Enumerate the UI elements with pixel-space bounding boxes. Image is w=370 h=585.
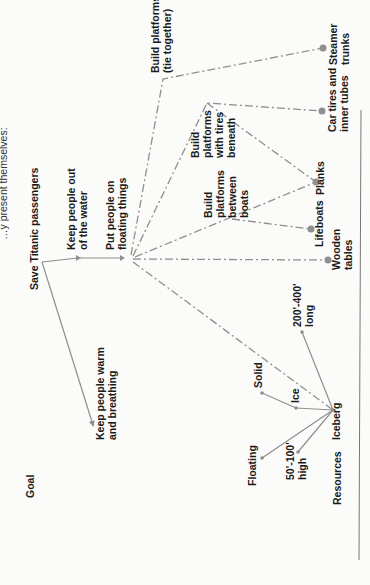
strategy-tires-beneath: Build platforms with tires beneath <box>189 110 237 159</box>
svg-text:high: high <box>296 458 308 480</box>
resource-car-tires: Car tires and inner tubes <box>326 68 350 132</box>
goal-root-label: Save Titanic passengers <box>28 167 40 290</box>
caption: …y present themselves: <box>0 127 9 240</box>
iceberg-label: Iceberg <box>330 403 342 440</box>
attr-floating: Floating <box>246 445 258 486</box>
goal-row-label: Goal <box>24 475 36 498</box>
node-ice <box>294 406 298 410</box>
node-car-tires <box>319 108 326 115</box>
resources-row-label: Resources <box>331 451 343 505</box>
node-steamer-trunks <box>320 45 327 52</box>
svg-text:(tie together): (tie together) <box>161 9 173 73</box>
resource-wooden-tables: Wooden tables <box>330 229 354 270</box>
svg-text:with tires: with tires <box>213 112 225 159</box>
resource-planks: Planks <box>314 161 326 195</box>
svg-text:tables: tables <box>342 239 354 270</box>
svg-text:Keep people warm: Keep people warm <box>94 347 106 440</box>
node-solid <box>260 391 264 395</box>
svg-text:Car tires and: Car tires and <box>326 68 338 132</box>
svg-text:Build: Build <box>202 192 214 218</box>
subgoal-floating-things: Put people on floating things <box>104 178 128 250</box>
resource-steamer-trunks: Steamer trunks <box>327 24 351 65</box>
attr-ice: Ice <box>289 388 301 403</box>
svg-text:200'-400': 200'-400' <box>291 283 303 327</box>
svg-text:platforms: platforms <box>214 170 226 218</box>
attr-length: 200'-400' long <box>291 283 315 327</box>
subgoal-keep-out-water: Keep people out of the water <box>65 168 89 250</box>
svg-text:long: long <box>303 305 315 327</box>
svg-text:Wooden: Wooden <box>330 229 342 270</box>
resource-lifeboats: Lifeboats <box>313 200 325 247</box>
svg-text:beneath: beneath <box>225 118 237 158</box>
strategy-tie-together: Build platforms (tie together) <box>149 0 173 73</box>
subgoal-keep-warm: Keep people warm and breathing <box>94 347 118 440</box>
node-length <box>300 330 304 334</box>
attr-solid: Solid <box>252 362 264 388</box>
strategy-edges <box>131 48 333 410</box>
svg-text:Build: Build <box>189 132 201 158</box>
node-height <box>296 450 300 454</box>
svg-text:50'-100': 50'-100' <box>284 442 296 480</box>
attr-height: 50'-100' high <box>284 442 308 480</box>
diagram-canvas: …y present themselves: Goal Resources <box>0 0 370 585</box>
svg-text:platforms: platforms <box>201 110 213 158</box>
svg-text:floating things: floating things <box>116 178 128 250</box>
strategy-between-boats: Build platforms between boats <box>202 170 250 218</box>
baseline-rule <box>359 110 361 560</box>
svg-text:trunks: trunks <box>339 33 351 65</box>
node-floating <box>260 456 264 460</box>
svg-text:Keep people out: Keep people out <box>65 168 77 250</box>
svg-text:Steamer: Steamer <box>327 24 339 65</box>
svg-text:and breathing: and breathing <box>106 371 118 440</box>
svg-text:Build platforms: Build platforms <box>149 0 161 73</box>
svg-text:Put people on: Put people on <box>104 181 116 250</box>
svg-text:boats: boats <box>238 190 250 218</box>
svg-text:of the water: of the water <box>77 191 89 250</box>
svg-text:between: between <box>226 176 238 218</box>
svg-text:inner tubes: inner tubes <box>338 75 350 132</box>
